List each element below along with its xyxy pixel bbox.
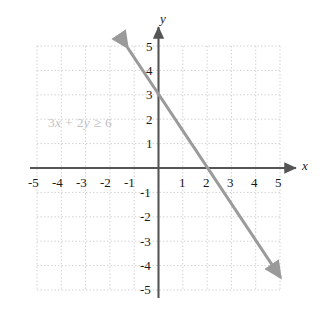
x-tick-label-neg1: -1: [124, 176, 135, 189]
y-tick-label-1: 1: [146, 137, 153, 150]
x-tick-label-3: 3: [227, 176, 234, 189]
inequality-annotation: 3x + 2y ≥ 6: [48, 116, 112, 130]
x-tick-label-2: 2: [203, 176, 210, 189]
coordinate-plane-svg: [0, 0, 322, 318]
x-tick-label-neg2: -2: [100, 176, 111, 189]
y-tick-label-5: 5: [146, 40, 153, 53]
annotation-coefficient-1: 3: [48, 115, 55, 130]
y-tick-label-2: 2: [146, 113, 153, 126]
x-tick-label-5: 5: [275, 176, 282, 189]
annotation-constant-value: 6: [105, 115, 112, 130]
y-tick-label-4: 4: [146, 64, 153, 77]
graph-figure: y x -5 -4 -3 -2 -1 1 2 3 4 5 5 4 3 2 1 -…: [0, 0, 322, 318]
y-tick-label-neg3: -3: [140, 235, 151, 248]
x-tick-label-neg4: -4: [52, 176, 63, 189]
x-axis-label: x: [302, 159, 308, 172]
x-tick-label-1: 1: [179, 176, 186, 189]
y-tick-label-neg1: -1: [140, 186, 151, 199]
y-tick-label-3: 3: [146, 88, 153, 101]
annotation-relation-operator: ≥: [90, 115, 105, 130]
annotation-coefficient-2: 2: [77, 115, 84, 130]
x-tick-label-neg5: -5: [28, 176, 39, 189]
x-tick-label-4: 4: [251, 176, 258, 189]
y-tick-label-neg4: -4: [140, 259, 151, 272]
y-axis-label: y: [160, 12, 166, 25]
x-tick-label-neg3: -3: [76, 176, 87, 189]
y-tick-label-neg5: -5: [140, 283, 151, 296]
y-tick-label-neg2: -2: [140, 210, 151, 223]
annotation-plus-operator: +: [61, 115, 76, 130]
